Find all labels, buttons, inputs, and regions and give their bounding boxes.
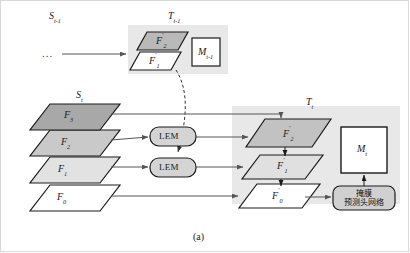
box-label-cur-memory: Mt [357, 144, 367, 156]
arrow-f2-to-lem-upper [111, 137, 148, 140]
figure-caption: (a) [193, 232, 204, 242]
ellipsis-prev-sequence: ... [42, 48, 53, 59]
group-label-cur-source: St [76, 90, 83, 102]
plane-label-src-f1: F1 [58, 164, 67, 176]
group-label-prev-source: St-1 [49, 11, 61, 23]
plane-label-src-f0: F0 [57, 192, 66, 204]
plane-label-src-f3: F3 [64, 110, 73, 122]
group-label-cur-target: Tt [306, 97, 313, 109]
plane-label-src-f2: F2 [61, 137, 70, 149]
plane-src-f1 [30, 157, 120, 183]
plane-label-tgt-f1: F′1 [277, 160, 288, 174]
module-label-lem-lower[interactable]: LEM [159, 163, 179, 172]
module-label-head-network[interactable]: 掩膜 预测头网络 [333, 189, 395, 207]
figure-diagram: St-1 Tt-1 St Tt ... F′2 F′1 Mt-1 F3 F2 F… [0, 0, 410, 253]
group-label-prev-target: Tt-1 [168, 11, 180, 23]
box-label-prev-memory: Mt-1 [198, 47, 213, 59]
diagram-canvas [0, 0, 410, 253]
plane-label-prev-f2: F′2 [156, 35, 167, 49]
plane-src-f3 [30, 104, 120, 130]
plane-src-f2 [30, 130, 120, 156]
plane-label-prev-f1: F′1 [149, 55, 160, 69]
head-network-line1: 掩膜 [333, 189, 395, 198]
plane-label-tgt-f0: F′0 [272, 190, 283, 204]
plane-label-tgt-f2: F′2 [283, 128, 294, 142]
plane-src-f0 [30, 185, 120, 211]
module-label-lem-upper[interactable]: LEM [159, 132, 179, 141]
head-network-line2: 预测头网络 [333, 198, 395, 207]
